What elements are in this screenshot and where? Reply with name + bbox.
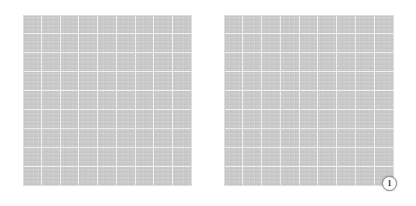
grid-cell[interactable] [117, 72, 136, 91]
grid-cell[interactable] [300, 129, 319, 148]
grid-cell[interactable] [300, 53, 319, 72]
grid-cell[interactable] [224, 110, 243, 129]
grid-cell[interactable] [318, 34, 337, 53]
grid-cell[interactable] [23, 91, 42, 110]
grid-cell[interactable] [117, 15, 136, 34]
grid-cell[interactable] [337, 110, 356, 129]
grid-cell[interactable] [318, 148, 337, 167]
grid-cell[interactable] [173, 110, 192, 129]
grid-cell[interactable] [154, 167, 173, 186]
grid-cell[interactable] [117, 34, 136, 53]
grid-cell[interactable] [173, 53, 192, 72]
grid-cell[interactable] [243, 15, 262, 34]
grid-cell[interactable] [23, 34, 42, 53]
grid-cell[interactable] [98, 91, 117, 110]
grid-cell[interactable] [337, 129, 356, 148]
grid-cell[interactable] [98, 72, 117, 91]
grid-cell[interactable] [23, 167, 42, 186]
grid-cell[interactable] [79, 53, 98, 72]
grid-cell[interactable] [42, 129, 61, 148]
grid-cell[interactable] [375, 110, 394, 129]
grid-cell[interactable] [243, 72, 262, 91]
grid-cell[interactable] [318, 129, 337, 148]
grid-cell[interactable] [173, 148, 192, 167]
grid-cell[interactable] [79, 110, 98, 129]
grid-cell[interactable] [117, 91, 136, 110]
grid-cell[interactable] [173, 72, 192, 91]
step-number-badge[interactable]: 1 [382, 176, 397, 191]
grid-cell[interactable] [79, 34, 98, 53]
grid-cell[interactable] [224, 129, 243, 148]
grid-cell[interactable] [42, 167, 61, 186]
grid-cell[interactable] [98, 53, 117, 72]
grid-cell[interactable] [375, 129, 394, 148]
grid-cell[interactable] [42, 72, 61, 91]
grid-cell[interactable] [79, 91, 98, 110]
grid-cell[interactable] [356, 167, 375, 186]
grid-cell[interactable] [281, 167, 300, 186]
grid-cell[interactable] [79, 15, 98, 34]
grid-cell[interactable] [23, 129, 42, 148]
grid-cell[interactable] [300, 91, 319, 110]
grid-cell[interactable] [117, 148, 136, 167]
grid-cell[interactable] [173, 15, 192, 34]
grid-cell[interactable] [98, 167, 117, 186]
grid-cell[interactable] [243, 91, 262, 110]
grid-cell[interactable] [337, 91, 356, 110]
grid-cell[interactable] [356, 148, 375, 167]
grid-cell[interactable] [154, 110, 173, 129]
grid-cell[interactable] [98, 110, 117, 129]
grid-cell[interactable] [136, 110, 155, 129]
grid-cell[interactable] [61, 91, 80, 110]
grid-cell[interactable] [173, 91, 192, 110]
grid-cell[interactable] [243, 148, 262, 167]
grid-cell[interactable] [262, 34, 281, 53]
grid-cell[interactable] [117, 167, 136, 186]
grid-cell[interactable] [356, 34, 375, 53]
grid-cell[interactable] [42, 148, 61, 167]
grid-cell[interactable] [136, 72, 155, 91]
grid-cell[interactable] [375, 53, 394, 72]
grid-cell[interactable] [61, 167, 80, 186]
grid-cell[interactable] [136, 129, 155, 148]
grid-cell[interactable] [61, 72, 80, 91]
grid-cell[interactable] [98, 15, 117, 34]
grid-cell[interactable] [224, 34, 243, 53]
grid-cell[interactable] [356, 91, 375, 110]
grid-cell[interactable] [42, 15, 61, 34]
grid-cell[interactable] [61, 15, 80, 34]
grid-cell[interactable] [337, 34, 356, 53]
grid-cell[interactable] [98, 34, 117, 53]
grid-cell[interactable] [318, 110, 337, 129]
grid-cell[interactable] [23, 148, 42, 167]
grid-cell[interactable] [154, 129, 173, 148]
grid-cell[interactable] [224, 91, 243, 110]
grid-cell[interactable] [300, 15, 319, 34]
grid-cell[interactable] [375, 34, 394, 53]
grid-cell[interactable] [281, 91, 300, 110]
grid-cell[interactable] [318, 72, 337, 91]
grid-cell[interactable] [98, 148, 117, 167]
grid-cell[interactable] [136, 167, 155, 186]
grid-cell[interactable] [300, 167, 319, 186]
grid-cell[interactable] [224, 53, 243, 72]
grid-cell[interactable] [136, 53, 155, 72]
grid-cell[interactable] [262, 15, 281, 34]
grid-cell[interactable] [356, 72, 375, 91]
grid-cell[interactable] [375, 72, 394, 91]
grid-cell[interactable] [79, 148, 98, 167]
grid-cell[interactable] [23, 72, 42, 91]
grid-cell[interactable] [281, 53, 300, 72]
grid-cell[interactable] [136, 34, 155, 53]
grid-cell[interactable] [42, 34, 61, 53]
grid-cell[interactable] [42, 53, 61, 72]
grid-cell[interactable] [262, 91, 281, 110]
grid-cell[interactable] [23, 53, 42, 72]
grid-cell[interactable] [262, 110, 281, 129]
grid-cell[interactable] [318, 15, 337, 34]
grid-cell[interactable] [136, 148, 155, 167]
grid-cell[interactable] [262, 167, 281, 186]
grid-cell[interactable] [337, 15, 356, 34]
grid-cell[interactable] [243, 53, 262, 72]
grid-cell[interactable] [61, 110, 80, 129]
